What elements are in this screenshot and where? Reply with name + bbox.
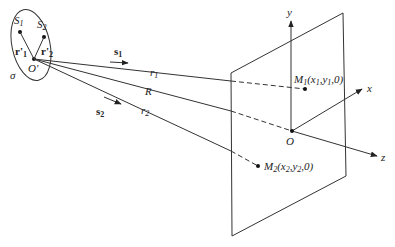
ray-r1-solid: [34, 59, 231, 81]
label-r2-prime: r'2: [41, 45, 53, 59]
origin-O: [290, 129, 294, 133]
label-M2: M2(x2,y2,0): [263, 160, 314, 174]
label-s1: s1: [114, 45, 122, 59]
label-sigma: σ: [10, 69, 16, 81]
point-M1: [303, 87, 307, 91]
ray-R-solid: [34, 59, 231, 111]
label-z-axis: z: [380, 151, 386, 163]
label-O-prime: O': [28, 62, 39, 74]
label-S2: S2: [37, 18, 47, 32]
label-M1: M1(x1,y1,0): [293, 73, 344, 87]
label-S1: S1: [14, 14, 24, 28]
label-s2: s2: [96, 105, 104, 119]
z-axis: [292, 131, 377, 156]
label-x-axis: x: [366, 82, 372, 94]
ray-r2-dashed: [231, 151, 258, 166]
label-r2: r2: [141, 104, 149, 118]
observation-plane: [231, 13, 346, 236]
label-O: O: [286, 135, 294, 147]
label-R: R: [144, 85, 152, 97]
label-r1: r1: [150, 66, 158, 80]
ray-r2-solid: [34, 59, 231, 151]
point-M2: [256, 164, 260, 168]
point-S1: [18, 30, 22, 34]
label-r1-prime: r'1: [15, 45, 27, 59]
label-y-axis: y: [286, 6, 292, 18]
x-axis: [292, 89, 362, 131]
diffraction-geometry-diagram: S1 S2 r'1 r'2 O' σ s1 s2 r1 R r2 y x z O…: [0, 0, 395, 247]
direction-arrow-s1: [110, 62, 128, 63]
ray-R-dashed: [231, 111, 292, 131]
